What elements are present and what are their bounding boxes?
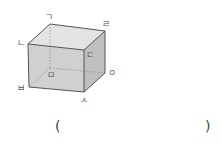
vertex-label-ieung: ㅇ (108, 68, 116, 78)
cuboid-diagram: ㄱ ㄴ ㄷ ㄹ ㅁ ㅂ ㅅ ㅇ (0, 0, 221, 149)
front-face (28, 44, 84, 92)
vertex-label-siot: ㅅ (80, 95, 88, 105)
vertex-label-giyeok: ㄱ (45, 12, 53, 22)
answer-open-paren: ( (55, 118, 60, 134)
vertex-label-digeut: ㄷ (86, 50, 94, 60)
vertex-label-rieul: ㄹ (102, 19, 110, 29)
vertex-label-bieup: ㅂ (17, 83, 25, 93)
vertex-label-nieun: ㄴ (17, 38, 25, 48)
vertex-label-mieum: ㅁ (47, 70, 55, 80)
answer-close-paren: ) (205, 118, 210, 134)
